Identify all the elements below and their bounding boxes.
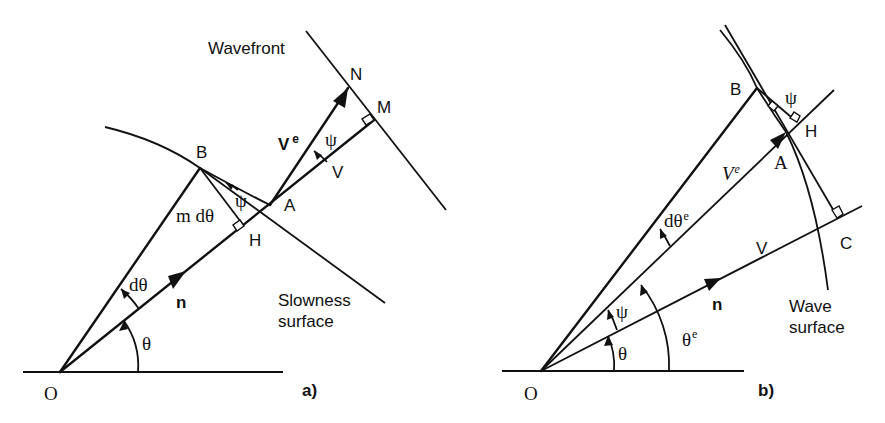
label-slowness-2: surface xyxy=(278,312,334,331)
line-OB xyxy=(60,168,200,372)
label-m-dtheta: m dθ xyxy=(176,205,214,226)
label-psi-b-top: ψ xyxy=(785,87,797,108)
panel-b: B ψ H A Ve dθe V C n Wave surface ψ θe θ… xyxy=(502,25,862,404)
label-psi-a-top: ψ xyxy=(325,129,337,150)
label-V-a: V xyxy=(332,163,344,182)
ve-arrowhead-b-icon xyxy=(770,132,786,149)
label-point-B-b: B xyxy=(730,80,741,99)
line-OC-v xyxy=(541,206,862,371)
label-point-A-b: A xyxy=(774,152,788,173)
psi-arrow-a-top-icon xyxy=(314,151,322,160)
label-n-a: n xyxy=(176,293,186,312)
line-OB-b xyxy=(541,88,757,371)
label-point-C-b: C xyxy=(840,234,852,253)
label-point-M: M xyxy=(377,98,391,117)
tangent-line-BC xyxy=(725,25,838,218)
label-psi-a-mid: ψ xyxy=(235,190,247,211)
theta-e-arc-b xyxy=(641,285,669,371)
label-ve-b: Ve xyxy=(722,162,741,184)
label-theta-b: θ xyxy=(618,343,627,364)
label-point-H-a: H xyxy=(249,231,261,250)
label-point-O-a: O xyxy=(44,383,58,404)
label-V-b: V xyxy=(756,239,768,258)
caption-b: b) xyxy=(758,381,774,400)
panel-a: Wavefront N M Ve ψ V B ψ A m dθ H dθ n S… xyxy=(23,31,446,404)
anisotropy-geometry-figure: Wavefront N M Ve ψ V B ψ A m dθ H dθ n S… xyxy=(0,0,885,423)
n-arrowhead-b-icon xyxy=(704,278,721,291)
label-n-b: n xyxy=(712,295,722,314)
label-psi-b-low: ψ xyxy=(616,301,628,322)
caption-a: a) xyxy=(302,381,317,400)
label-theta-e: θe xyxy=(682,327,697,350)
label-point-O-b: O xyxy=(524,383,538,404)
label-point-N: N xyxy=(350,65,362,84)
right-angle-H-icon xyxy=(233,220,244,231)
line-OM-n-direction xyxy=(60,120,374,372)
label-point-B-a: B xyxy=(196,143,207,162)
label-wave-1: Wave xyxy=(789,297,832,316)
label-point-H-b: H xyxy=(805,122,817,141)
right-angle-H-b-icon xyxy=(790,112,800,122)
label-wave-2: surface xyxy=(789,318,845,337)
label-slowness-1: Slowness xyxy=(278,291,351,310)
label-point-A-a: A xyxy=(284,196,296,215)
label-wavefront: Wavefront xyxy=(208,39,285,58)
label-ve-a: Ve xyxy=(278,132,299,154)
label-dtheta-e: dθe xyxy=(664,209,689,231)
label-dtheta-a: dθ xyxy=(129,274,148,295)
n-arrowhead-icon xyxy=(168,271,186,289)
label-theta-a: θ xyxy=(142,333,151,354)
slowness-tangent-line xyxy=(200,168,385,303)
